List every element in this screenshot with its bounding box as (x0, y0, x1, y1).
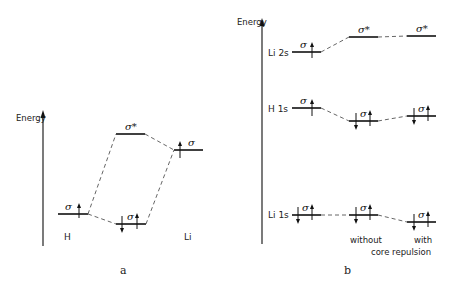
energy-label-a: Energy (16, 113, 46, 123)
arrow-up-icon (368, 110, 372, 115)
orbital-label: σ (360, 108, 368, 119)
correlation-line (145, 134, 174, 150)
orbital-label: σ (302, 202, 310, 213)
orbital-label: σ (300, 95, 308, 106)
arrow-up-icon (310, 99, 314, 104)
atom-label-h: H (64, 232, 71, 242)
orbital-label: σ* (125, 121, 137, 132)
orbital-label: σ (360, 202, 368, 213)
correlation-line (378, 116, 407, 121)
orbital-label: σ (188, 137, 196, 148)
orbital-label: σ (300, 39, 308, 50)
arrow-up-icon (310, 42, 314, 47)
correlation-line (146, 150, 174, 224)
correlation-line (378, 215, 407, 222)
correlation-line (321, 37, 349, 52)
column-label-without: without (350, 235, 383, 245)
orbital-label: σ (418, 103, 426, 114)
arrow-up-icon (178, 141, 182, 146)
arrow-down-icon (296, 219, 300, 224)
correlation-line (321, 108, 349, 121)
arrow-down-icon (412, 226, 416, 231)
energy-label-b: Energy (237, 17, 267, 27)
row-label-li1s: Li 1s (268, 210, 289, 220)
orbital-label: σ (65, 201, 73, 212)
arrow-down-icon (354, 219, 358, 224)
caption-b: b (344, 264, 351, 277)
column-footer: core repulsion (371, 247, 431, 257)
arrow-up-icon (135, 213, 139, 218)
panel-b: Energy Li 2s H 1s Li 1s σ σ* σ* σ σ σ (237, 17, 436, 277)
orbital-label: σ (127, 211, 135, 222)
arrow-down-icon (354, 125, 358, 130)
mo-diagram: Energy σ σ σ* σ H Li a Energy (0, 0, 452, 291)
arrow-up-icon (368, 204, 372, 209)
column-label-with: with (414, 235, 432, 245)
arrow-down-icon (120, 228, 124, 233)
correlation-line (88, 214, 116, 224)
orbital-label: σ (418, 209, 426, 220)
row-label-h1s: H 1s (268, 104, 288, 114)
arrow-up-icon (77, 203, 81, 208)
correlation-line (88, 134, 116, 214)
arrow-up-icon (426, 105, 430, 110)
arrow-up-icon (310, 204, 314, 209)
caption-a: a (120, 264, 127, 277)
correlation-line (378, 36, 407, 37)
orbital-label: σ* (358, 24, 370, 35)
orbital-label: σ* (416, 23, 428, 34)
atom-label-li: Li (184, 232, 192, 242)
arrow-up-icon (426, 211, 430, 216)
panel-a: Energy σ σ σ* σ H Li a (16, 110, 203, 277)
row-label-li2s: Li 2s (268, 48, 289, 58)
arrow-down-icon (412, 120, 416, 125)
